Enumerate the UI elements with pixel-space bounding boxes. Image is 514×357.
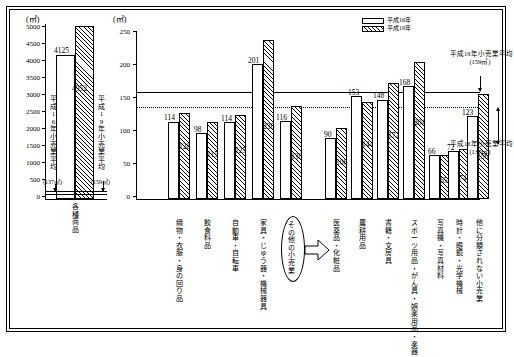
bar-h16-3 <box>252 64 263 199</box>
left-annotation-h16-value: (137㎡) <box>43 177 62 186</box>
xlabel-7: 書籍・文房具 <box>384 220 393 266</box>
right-tick-100 <box>133 130 136 131</box>
legend-swatch-h19 <box>362 26 384 32</box>
left-tick-5000 <box>42 26 45 27</box>
bar-h19-1 <box>207 122 218 199</box>
xlabel-10-text: 時計・眼鏡・光学機械 <box>455 220 464 296</box>
xlabel-1-text: 飲食料品 <box>203 220 212 250</box>
xlabel-11: 他に分類されない小売業 <box>475 220 484 304</box>
bar-h16-5 <box>325 138 336 199</box>
left-ytick-0: 0 <box>18 193 40 201</box>
left-ytick-4000: 4000 <box>18 57 40 65</box>
left-annotation-h16: 平成16年小売業平均 <box>49 96 58 172</box>
bar-value-h16-0: 114 <box>164 113 175 122</box>
right-ytick-0: 0 <box>108 193 130 201</box>
bar-value-h16-11: 123 <box>462 108 473 117</box>
annotation-h19-average: 平成19年小売業平均 (159㎡) <box>420 50 510 66</box>
bar-h19-6 <box>362 102 373 199</box>
right-ytick-100: 100 <box>108 127 130 135</box>
bar-value-h19-4: 138 <box>291 152 302 161</box>
other-retail-circle <box>281 216 305 282</box>
xlabel-10: 時計・眼鏡・光学機械 <box>455 220 464 296</box>
right-x-axis <box>136 199 480 200</box>
legend-label-h16: 平成16年 <box>387 17 411 23</box>
left-y-axis <box>45 24 46 199</box>
bar-value-h19-5: 106 <box>336 158 347 167</box>
bar-value-h16-8: 168 <box>399 78 410 87</box>
bar-h16-0 <box>168 122 179 199</box>
xlabel-6-text: 農耕用品 <box>358 220 367 250</box>
bar-h19-8 <box>414 62 425 199</box>
bar-h19-7 <box>388 83 399 199</box>
bar-value-h16-6: 153 <box>348 88 359 97</box>
left-ytick-3500: 3500 <box>18 74 40 82</box>
bar-value-h16-3: 201 <box>248 56 259 65</box>
left-arrow-h16 <box>55 184 56 191</box>
bar-value-h19-7: 172 <box>388 131 399 140</box>
left-annotation-h19-text: 平成19年小売業平均 <box>97 96 106 172</box>
left-tick-4500 <box>42 43 45 44</box>
right-ytick-150: 150 <box>108 94 130 102</box>
legend-item-h16: 平成16年 <box>362 16 411 24</box>
left-tick-2500 <box>42 111 45 112</box>
bar-h19-2 <box>235 115 246 199</box>
xlabel-0: 織物・衣服・身の回り品 <box>175 220 184 304</box>
xlabel-11-text: 他に分類されない小売業 <box>475 220 484 304</box>
left-tick-4000 <box>42 60 45 61</box>
bar-value-h16-7: 148 <box>373 91 384 100</box>
right-refline-h19-average <box>136 92 480 93</box>
bar-h16-10 <box>448 151 459 199</box>
xlabel-1: 飲食料品 <box>203 220 212 250</box>
right-tick-50 <box>133 163 136 164</box>
left-ytick-4500: 4500 <box>18 40 40 48</box>
left-annotation-h19: 平成19年小売業平均 <box>97 96 106 172</box>
annotation-h19-average-value: (159㎡) <box>450 58 510 66</box>
bar-value-h19-6: 144 <box>362 140 373 149</box>
bar-h19-0 <box>179 113 190 199</box>
left-bar-h16-value: 4125 <box>54 46 69 55</box>
xlabel-5-text: 医薬品・化粧品 <box>332 220 341 273</box>
left-ytick-1500: 1500 <box>18 142 40 150</box>
left-ytick-5000: 5000 <box>18 23 40 31</box>
left-ytick-2500: 2500 <box>18 108 40 116</box>
annotation-h16-arrow <box>498 108 499 144</box>
legend-swatch-h16 <box>362 18 384 24</box>
bar-h16-9 <box>429 155 440 199</box>
bar-value-h19-9: 65 <box>440 176 448 185</box>
bar-h19-3 <box>263 40 274 199</box>
xlabel-8: スポーツ用品・がん具・娯楽用品・楽器 <box>410 220 419 357</box>
legend-label-h19: 平成19年 <box>387 25 411 31</box>
bar-value-h19-10: 74 <box>459 174 467 183</box>
xlabel-8-text: スポーツ用品・がん具・娯楽用品・楽器 <box>410 220 419 357</box>
right-refline-h16-average <box>136 107 480 108</box>
left-tick-2000 <box>42 128 45 129</box>
left-ytick-2000: 2000 <box>18 125 40 133</box>
left-bar-h19 <box>75 26 94 199</box>
left-annotation-h16-text: 平成16年小売業平均 <box>49 96 58 172</box>
xlabel-7-text: 書籍・文房具 <box>384 220 393 266</box>
bar-value-h19-0: 128 <box>179 142 190 151</box>
bar-value-h19-3: 236 <box>263 122 274 131</box>
left-category-label: 各種商品 <box>71 204 80 234</box>
right-ytick-200: 200 <box>108 61 130 69</box>
left-tick-3000 <box>42 94 45 95</box>
bar-value-h16-1: 98 <box>194 125 202 134</box>
bar-value-h19-8: 204 <box>414 118 425 127</box>
bar-value-h19-1: 115 <box>207 150 218 159</box>
annotation-h16-average-label: 平成16年小売業平均 <box>450 140 510 148</box>
xlabel-3-text: 家具・じゅう器・機械器具 <box>259 220 268 311</box>
right-tick-200 <box>133 64 136 65</box>
bar-h16-7 <box>377 100 388 199</box>
right-ytick-250: 250 <box>108 28 130 36</box>
right-tick-0 <box>133 196 136 197</box>
legend-item-h19: 平成19年 <box>362 24 411 32</box>
legend: 平成16年 平成19年 <box>362 16 411 32</box>
xlabel-5: 医薬品・化粧品 <box>332 220 341 273</box>
bar-h16-4 <box>280 121 291 199</box>
left-annotation-h19-value: (159㎡) <box>91 177 110 186</box>
left-tick-1500 <box>42 145 45 146</box>
bar-h16-6 <box>351 96 362 199</box>
left-x-axis <box>45 199 107 200</box>
left-tick-3500 <box>42 77 45 78</box>
xlabel-6: 農耕用品 <box>358 220 367 250</box>
